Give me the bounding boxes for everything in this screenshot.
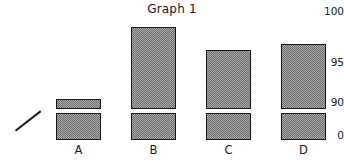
x-axis-label-b: B	[131, 143, 176, 157]
bar-a-upper-segment	[56, 99, 101, 109]
x-axis-label-a: A	[56, 143, 101, 157]
plot-area: ABCD	[0, 0, 344, 165]
bar-d-upper-segment	[281, 44, 326, 109]
x-axis-label-d: D	[281, 143, 326, 157]
chart-container: Graph 1 100 95 90 0 ABCD	[0, 0, 344, 165]
bar-c-upper-segment	[206, 50, 251, 109]
bar-b-upper-segment	[131, 27, 176, 109]
bar-b-lower-segment	[131, 113, 176, 140]
x-axis-label-c: C	[206, 143, 251, 157]
bar-c-lower-segment	[206, 113, 251, 140]
bar-d-lower-segment	[281, 113, 326, 140]
bar-a-lower-segment	[56, 113, 101, 140]
